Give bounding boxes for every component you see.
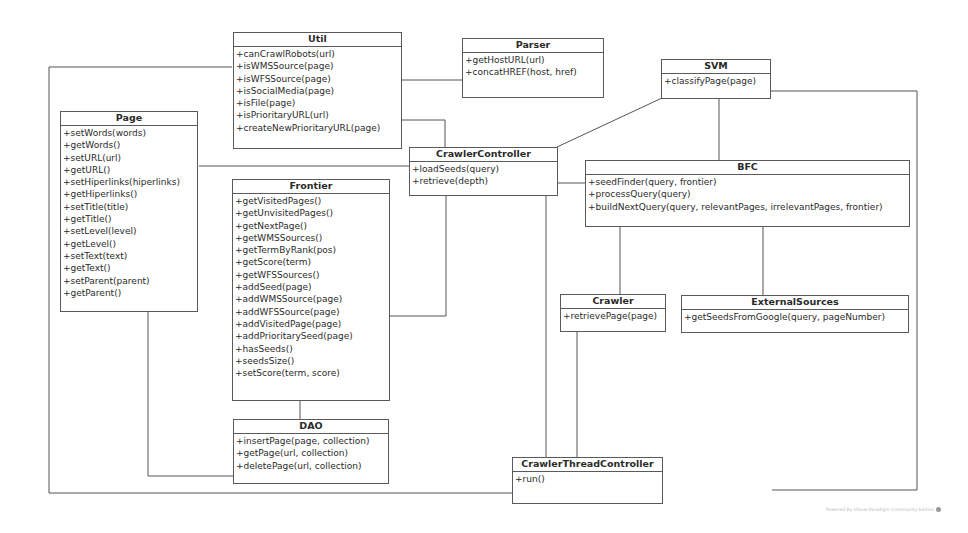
class-title: Frontier	[233, 180, 389, 194]
operations-list: +getSeedsFromGoogle(query, pageNumber)	[682, 310, 908, 323]
operation: +retrievePage(page)	[563, 310, 665, 322]
assoc-page-dao	[148, 311, 233, 476]
operation: +getUnvisitedPages()	[235, 207, 389, 219]
operations-list: +classifyPage(page)	[662, 74, 770, 87]
operation: +getTitle()	[63, 213, 197, 225]
operations-list: +run()	[513, 472, 662, 485]
operation: +setTitle(title)	[63, 201, 197, 213]
assoc-svm-crawlercontroller	[557, 98, 662, 147]
class-title: SVM	[662, 60, 770, 74]
operation: +run()	[515, 473, 662, 485]
operation: +getHiperlinks()	[63, 188, 197, 200]
operations-list: +setWords(words) +getWords() +setURL(url…	[61, 126, 197, 299]
class-title: Crawler	[561, 295, 665, 309]
class-crawler-controller[interactable]: CrawlerController +loadSeeds(query) +ret…	[409, 147, 558, 196]
class-title: ExternalSources	[682, 296, 908, 310]
operation: +isFile(page)	[236, 97, 401, 109]
class-parser[interactable]: Parser +getHostURL(url) +concatHREF(host…	[462, 38, 604, 98]
class-title: CrawlerThreadController	[513, 458, 662, 472]
operation: +concatHREF(host, href)	[465, 66, 603, 78]
operation: +getTermByRank(pos)	[235, 244, 389, 256]
class-title: DAO	[234, 420, 388, 434]
assoc-frontier-crawlercontroller	[389, 195, 446, 316]
operations-list: +getVisitedPages() +getUnvisitedPages() …	[233, 194, 389, 379]
operation: +setLevel(level)	[63, 225, 197, 237]
class-title: Util	[234, 33, 401, 47]
operation: +getText()	[63, 262, 197, 274]
operation: +processQuery(query)	[588, 188, 909, 200]
operation: +isPrioritaryURL(url)	[236, 109, 401, 121]
operation: +setText(text)	[63, 250, 197, 262]
watermark: Powered By Visual Paradigm Community Edi…	[826, 507, 941, 512]
operation: +retrieve(depth)	[412, 175, 557, 187]
operation: +classifyPage(page)	[664, 75, 770, 87]
class-svm[interactable]: SVM +classifyPage(page)	[661, 59, 771, 99]
class-external-sources[interactable]: ExternalSources +getSeedsFromGoogle(quer…	[681, 295, 909, 333]
operation: +getURL()	[63, 164, 197, 176]
operation: +getWFSSources()	[235, 269, 389, 281]
operation: +hasSeeds()	[235, 343, 389, 355]
class-page[interactable]: Page +setWords(words) +getWords() +setUR…	[60, 111, 198, 312]
operations-list: +seedFinder(query, frontier) +processQue…	[586, 175, 909, 213]
operation: +getVisitedPages()	[235, 195, 389, 207]
class-title: BFC	[586, 161, 909, 175]
operation: +getWords()	[63, 139, 197, 151]
operations-list: +retrievePage(page)	[561, 309, 665, 322]
operation: +setHiperlinks(hiperlinks)	[63, 176, 197, 188]
operations-list: +getHostURL(url) +concatHREF(host, href)	[463, 53, 603, 79]
operation: +addVisitedPage(page)	[235, 318, 389, 330]
class-title: CrawlerController	[410, 148, 557, 162]
operations-list: +insertPage(page, collection) +getPage(u…	[234, 434, 388, 472]
operation: +isWMSSource(page)	[236, 60, 401, 72]
class-crawler-thread-controller[interactable]: CrawlerThreadController +run()	[512, 457, 663, 504]
class-util[interactable]: Util +canCrawlRobots(url) +isWMSSource(p…	[233, 32, 402, 149]
operation: +setScore(term, score)	[235, 367, 389, 379]
operation: +addWMSSource(page)	[235, 293, 389, 305]
operation: +setURL(url)	[63, 152, 197, 164]
operation: +seedFinder(query, frontier)	[588, 176, 909, 188]
visual-paradigm-logo-icon	[936, 507, 941, 512]
operations-list: +canCrawlRobots(url) +isWMSSource(page) …	[234, 47, 401, 134]
class-title: Page	[61, 112, 197, 126]
operation: +deletePage(url, collection)	[236, 460, 388, 472]
class-bfc[interactable]: BFC +seedFinder(query, frontier) +proces…	[585, 160, 910, 227]
operation: +addPrioritarySeed(page)	[235, 330, 389, 342]
class-title: Parser	[463, 39, 603, 53]
diagram-canvas: Util +canCrawlRobots(url) +isWMSSource(p…	[0, 0, 968, 533]
watermark-text: Powered By Visual Paradigm Community Edi…	[826, 507, 934, 512]
operation: +getPage(url, collection)	[236, 447, 388, 459]
operation: +setParent(parent)	[63, 275, 197, 287]
assoc-svm-crawlerthreadcontroller	[771, 91, 917, 490]
class-frontier[interactable]: Frontier +getVisitedPages() +getUnvisite…	[232, 179, 390, 401]
operations-list: +loadSeeds(query) +retrieve(depth)	[410, 162, 557, 188]
operation: +isSocialMedia(page)	[236, 85, 401, 97]
operation: +setWords(words)	[63, 127, 197, 139]
operation: +getLevel()	[63, 238, 197, 250]
operation: +createNewPrioritaryURL(page)	[236, 122, 401, 134]
operation: +addWFSSource(page)	[235, 306, 389, 318]
operation: +insertPage(page, collection)	[236, 435, 388, 447]
operation: +canCrawlRobots(url)	[236, 48, 401, 60]
class-crawler[interactable]: Crawler +retrievePage(page)	[560, 294, 666, 332]
operation: +isWFSSource(page)	[236, 73, 401, 85]
operation: +loadSeeds(query)	[412, 163, 557, 175]
class-dao[interactable]: DAO +insertPage(page, collection) +getPa…	[233, 419, 389, 484]
operation: +getNextPage()	[235, 220, 389, 232]
operation: +buildNextQuery(query, relevantPages, ir…	[588, 201, 909, 213]
operation: +getHostURL(url)	[465, 54, 603, 66]
operation: +getSeedsFromGoogle(query, pageNumber)	[684, 311, 908, 323]
operation: +getParent()	[63, 287, 197, 299]
operation: +seedsSize()	[235, 355, 389, 367]
operation: +getScore(term)	[235, 256, 389, 268]
operation: +getWMSSources()	[235, 232, 389, 244]
assoc-util-crawlercontroller	[401, 120, 445, 147]
operation: +addSeed(page)	[235, 281, 389, 293]
